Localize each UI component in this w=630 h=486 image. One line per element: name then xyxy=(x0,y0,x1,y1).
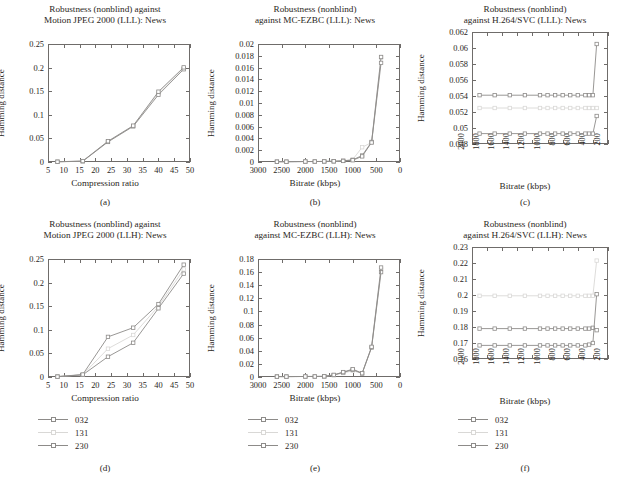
panel-c-body: Robustness (nonblind) against H.264/SVC … xyxy=(420,0,630,215)
panel-f-caption: (f) xyxy=(420,463,630,473)
panel-b-body: Robustness (nonblind) against MC-EZBC (L… xyxy=(210,0,420,215)
series-line-230 xyxy=(277,63,381,162)
panel-c-caption: (c) xyxy=(420,197,630,207)
data-point-230 xyxy=(332,373,335,376)
data-point-230 xyxy=(304,160,307,163)
data-point-032 xyxy=(576,94,579,97)
data-point-032 xyxy=(478,327,481,330)
data-point-131 xyxy=(584,294,587,297)
data-point-131 xyxy=(553,106,556,109)
data-point-131 xyxy=(106,347,109,350)
data-point-230 xyxy=(538,132,541,135)
panel-d: Robustness (nonblind) against Motion JPE… xyxy=(0,215,210,486)
data-point-131 xyxy=(561,106,564,109)
data-point-230 xyxy=(569,344,572,347)
series-layer xyxy=(420,215,630,486)
data-point-230 xyxy=(157,90,160,93)
data-point-230 xyxy=(595,293,598,296)
legend-f: 032 131 230 xyxy=(458,413,509,452)
data-point-230 xyxy=(523,344,526,347)
legend-label-230: 230 xyxy=(495,441,509,451)
legend-label-032: 032 xyxy=(495,415,509,425)
panel-a-body: Robustness (nonblind) against Motion JPE… xyxy=(0,0,210,215)
data-point-032 xyxy=(584,327,587,330)
data-point-032 xyxy=(493,327,496,330)
data-point-131 xyxy=(478,294,481,297)
data-point-131 xyxy=(523,106,526,109)
panel-a-caption: (a) xyxy=(0,197,210,207)
data-point-131 xyxy=(576,106,579,109)
figure-grid: Robustness (nonblind) against Motion JPE… xyxy=(0,0,630,486)
data-point-131 xyxy=(508,106,511,109)
legend-item-131: 131 xyxy=(248,426,299,439)
legend-swatch-230 xyxy=(248,441,278,450)
panel-e-caption: (e) xyxy=(210,463,420,473)
data-point-230 xyxy=(132,326,135,329)
data-point-230 xyxy=(332,160,335,163)
series-line-131 xyxy=(277,269,381,376)
series-line-230 xyxy=(480,116,597,134)
data-point-032 xyxy=(523,94,526,97)
series-line-032 xyxy=(57,274,183,377)
data-point-032 xyxy=(132,341,135,344)
data-point-230 xyxy=(478,344,481,347)
data-point-131 xyxy=(478,106,481,109)
legend-label-131: 131 xyxy=(285,428,299,438)
panel-f: Robustness (nonblind) against H.264/SVC … xyxy=(420,215,630,486)
series-line-230 xyxy=(57,67,183,161)
data-point-230 xyxy=(351,367,354,370)
legend-label-032: 032 xyxy=(75,415,89,425)
panel-f-body: Robustness (nonblind) against H.264/SVC … xyxy=(420,215,630,486)
panel-e: Robustness (nonblind) against MC-EZBC (L… xyxy=(210,215,420,486)
panel-a-plot: 00.050.10.150.20.255101520253035404550Ha… xyxy=(0,0,210,215)
data-point-032 xyxy=(587,327,590,330)
data-point-230 xyxy=(584,344,587,347)
data-point-230 xyxy=(561,344,564,347)
data-point-131 xyxy=(523,294,526,297)
data-point-230 xyxy=(342,159,345,162)
data-point-230 xyxy=(56,160,59,163)
series-line-230 xyxy=(57,265,183,377)
legend-swatch-032 xyxy=(248,415,278,424)
data-point-032 xyxy=(546,327,549,330)
data-point-131 xyxy=(591,294,594,297)
data-point-131 xyxy=(553,294,556,297)
data-point-131 xyxy=(546,106,549,109)
data-point-032 xyxy=(379,55,382,58)
panel-a: Robustness (nonblind) against Motion JPE… xyxy=(0,0,210,215)
data-point-131 xyxy=(508,294,511,297)
data-point-230 xyxy=(275,375,278,378)
legend-item-230: 230 xyxy=(38,439,89,452)
data-point-230 xyxy=(81,373,84,376)
data-point-230 xyxy=(587,132,590,135)
data-point-032 xyxy=(546,94,549,97)
data-point-131 xyxy=(587,294,590,297)
data-point-230 xyxy=(132,124,135,127)
data-point-131 xyxy=(595,106,598,109)
legend-label-230: 230 xyxy=(75,441,89,451)
legend-item-032: 032 xyxy=(248,413,299,426)
series-line-131 xyxy=(57,68,183,162)
series-line-032 xyxy=(57,69,183,162)
series-line-230 xyxy=(480,294,597,345)
panel-d-caption: (d) xyxy=(0,463,210,473)
legend-label-131: 131 xyxy=(495,428,509,438)
data-point-230 xyxy=(553,132,556,135)
data-point-230 xyxy=(342,370,345,373)
data-point-131 xyxy=(360,146,363,149)
data-point-032 xyxy=(587,94,590,97)
data-point-230 xyxy=(591,132,594,135)
panel-c: Robustness (nonblind) against H.264/SVC … xyxy=(420,0,630,215)
data-point-230 xyxy=(576,132,579,135)
series-line-131 xyxy=(480,261,597,296)
panel-d-plot: 00.050.10.150.20.255101520253035404550Ha… xyxy=(0,215,210,486)
legend-swatch-230 xyxy=(458,441,488,450)
legend-label-032: 032 xyxy=(285,415,299,425)
legend-swatch-032 xyxy=(458,415,488,424)
data-point-032 xyxy=(595,329,598,332)
data-point-230 xyxy=(576,344,579,347)
data-point-230 xyxy=(584,132,587,135)
data-point-131 xyxy=(493,294,496,297)
data-point-230 xyxy=(587,343,590,346)
legend-swatch-131 xyxy=(458,428,488,437)
